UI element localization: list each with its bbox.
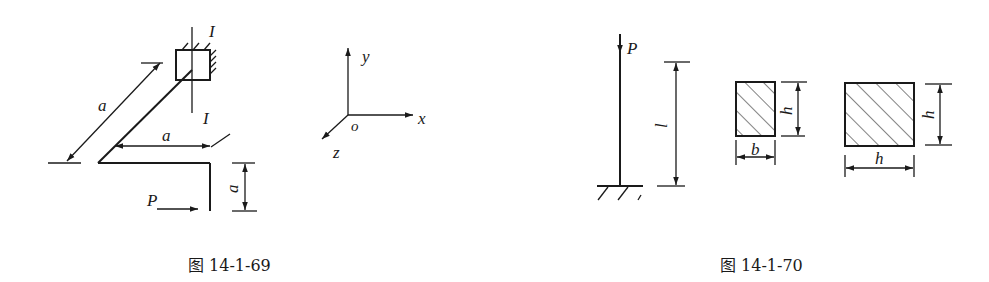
figure-14-1-70: P l h b — [597, 34, 952, 275]
fixed-support — [176, 43, 216, 80]
dim-label-rect-height: h — [777, 107, 796, 116]
axis-label-x: x — [417, 109, 426, 128]
diagram-canvas: I I a a a P — [0, 0, 989, 282]
load-arrow-P: P — [146, 191, 198, 210]
square-section: h h — [845, 83, 952, 177]
dim-label-square-height: h — [919, 111, 938, 120]
section-label-bottom: I — [202, 109, 210, 128]
load-label: P — [146, 191, 157, 210]
dim-label-diagonal: a — [98, 96, 107, 115]
dim-label-horizontal: a — [162, 126, 171, 145]
section-label-top: I — [208, 22, 216, 41]
z-axis — [322, 115, 348, 139]
dimension-vertical: a — [223, 163, 257, 211]
figure-caption: 图 14-1-69 — [188, 256, 271, 275]
figure-14-1-69: I I a a a P — [48, 22, 426, 275]
axis-label-y: y — [360, 47, 370, 66]
figure-caption: 图 14-1-70 — [720, 256, 803, 275]
load-label: P — [626, 39, 637, 58]
dim-label-length: l — [652, 123, 671, 128]
rect-section: h b — [736, 82, 807, 165]
fixed-base — [597, 186, 643, 200]
dim-label-vertical: a — [223, 185, 242, 194]
bent-bar — [98, 70, 210, 211]
axis-label-origin: o — [351, 118, 359, 134]
dimension-length: l — [652, 62, 690, 186]
dimension-diagonal: a — [48, 63, 163, 163]
dim-label-rect-width: b — [751, 140, 760, 159]
dim-label-square-width: h — [875, 149, 884, 168]
coordinate-axes: y x o z — [322, 47, 426, 162]
axis-label-z: z — [332, 143, 340, 162]
